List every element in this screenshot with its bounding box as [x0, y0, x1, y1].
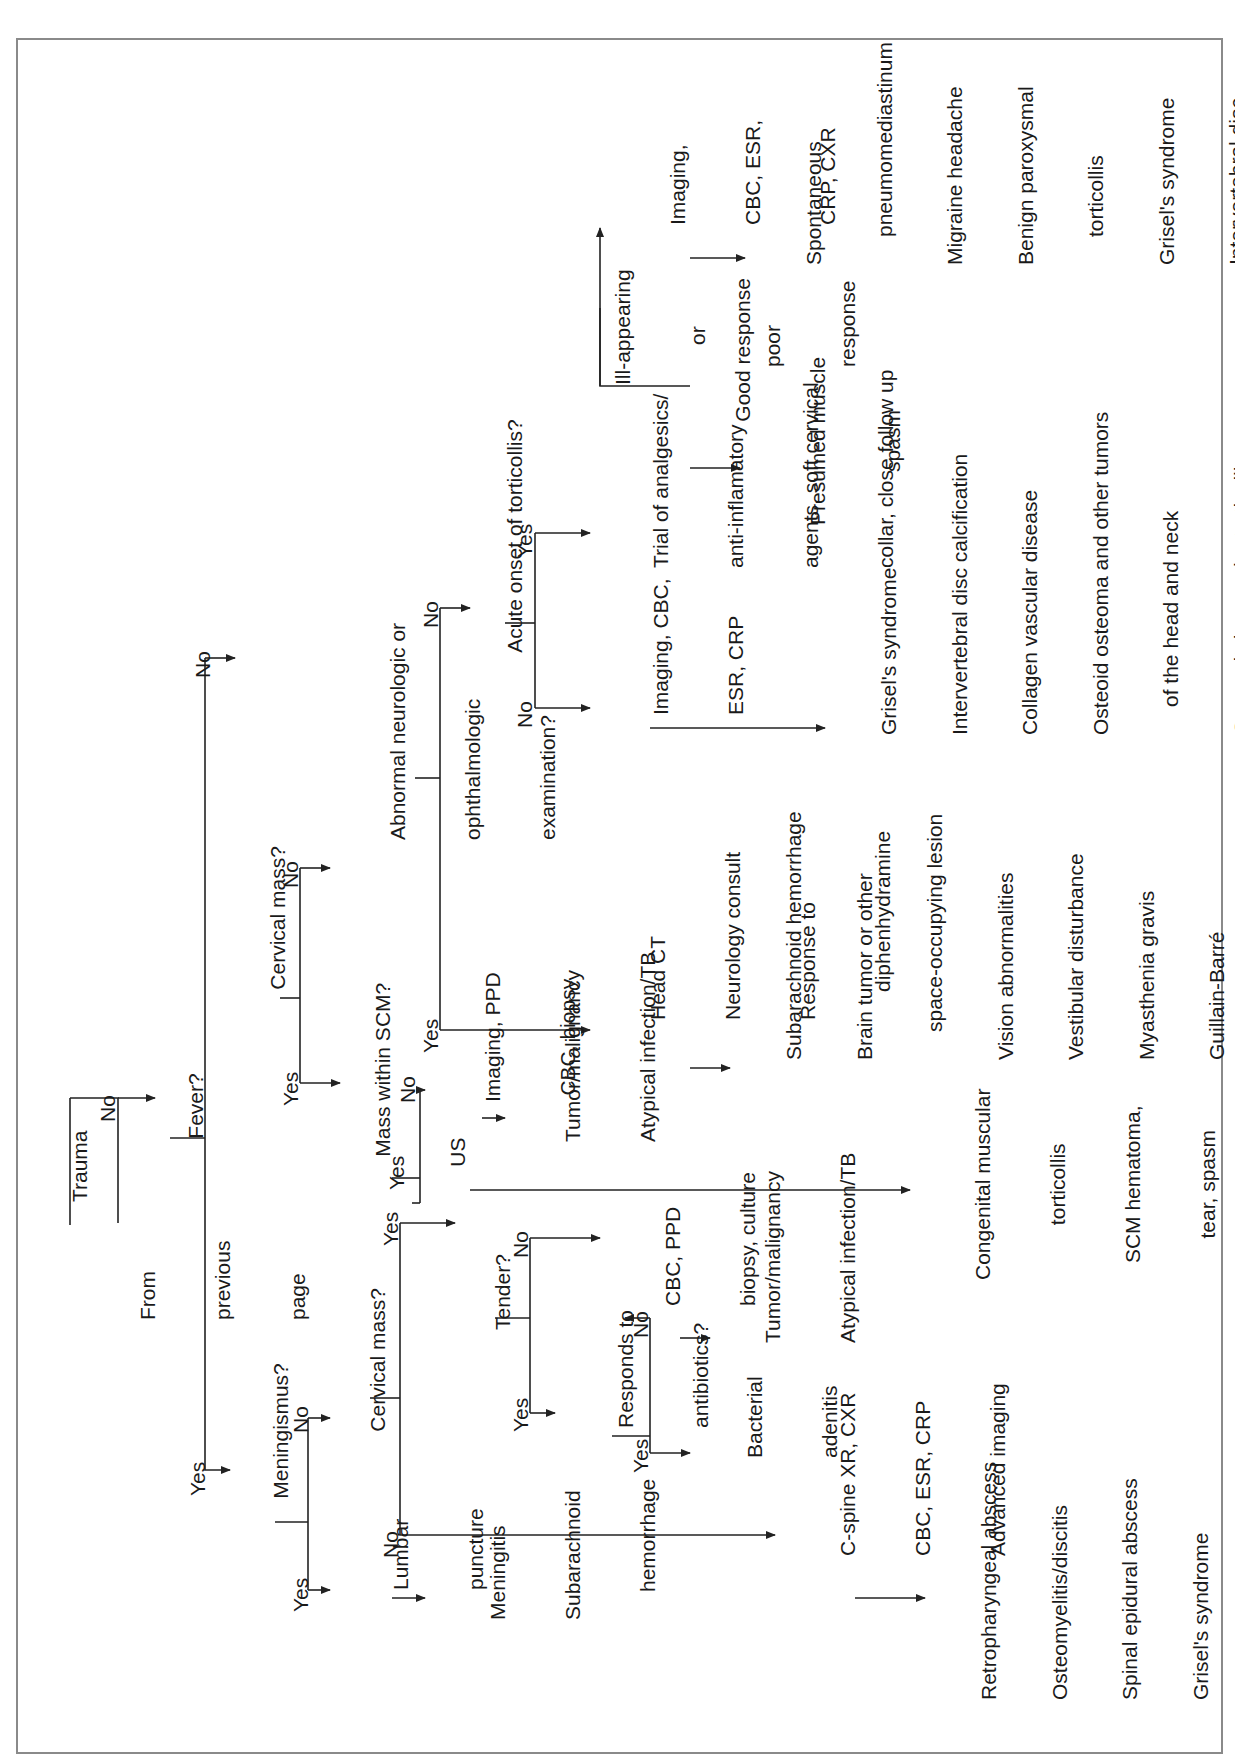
- edge-label-no: No: [628, 1311, 653, 1338]
- node-scm-diagnoses: Congenital muscular torticollis SCM hema…: [920, 1089, 1235, 1280]
- node-imaging-cbc-esr-crp: Imaging, CBC, ESR, CRP: [598, 578, 798, 715]
- edge-label-yes: Yes: [288, 1578, 313, 1612]
- node-meningitis-outcomes: Meningitis Subarachnoid hemorrhage: [435, 1479, 710, 1620]
- node-us: US: [420, 1137, 495, 1190]
- edge-label-yes: Yes: [185, 1462, 210, 1496]
- node-from-previous-page: From previous page: [85, 1241, 360, 1320]
- edge-label-yes: Yes: [512, 524, 537, 558]
- node-tender: Tender?: [465, 1254, 540, 1353]
- edge-label-no: No: [278, 861, 303, 888]
- node-ill-appearing: Ill-appearing or poor response: [560, 269, 910, 385]
- edge-label-no: No: [288, 1406, 313, 1433]
- edge-label-no: No: [508, 1231, 533, 1258]
- edge-label-yes: Yes: [418, 1019, 443, 1053]
- node-meningismus: Meningismus?: [243, 1363, 318, 1522]
- edge-label-yes: Yes: [378, 1212, 403, 1246]
- edge-label-no: No: [512, 701, 537, 728]
- node-abnormal-neuro-exam: Abnormal neurologic or ophthalmologic ex…: [335, 623, 610, 840]
- edge-label-yes: Yes: [278, 1072, 303, 1106]
- node-neuro-diagnoses: Subarachnoid hemorrhage Brain tumor or o…: [735, 811, 1235, 1060]
- edge-label-no: No: [95, 1095, 120, 1122]
- node-acute-poor-response-diagnoses: Spontaneous pneumomediastinum Migraine h…: [755, 42, 1235, 265]
- edge-label-no: No: [395, 1076, 420, 1103]
- node-tumor-fever: Tumor/malignancy Atypical infection/TB: [710, 1153, 910, 1343]
- edge-label-yes: Yes: [628, 1439, 653, 1473]
- node-cervical-mass-fever: Cervical mass?: [340, 1288, 415, 1455]
- edge-label-no: No: [190, 651, 215, 678]
- node-trauma: Trauma: [42, 1130, 117, 1225]
- edge-label-yes: Yes: [508, 1398, 533, 1432]
- edge-label-no: No: [378, 1531, 403, 1558]
- node-fever-no-mass-diagnoses: Retropharyngeal abscess Osteomyelitis/di…: [930, 1419, 1235, 1700]
- edge-label-yes: Yes: [384, 1156, 409, 1190]
- edge-label-no: No: [418, 601, 443, 628]
- flowchart-canvas: Trauma No From previous page Fever? No Y…: [0, 0, 1235, 1758]
- node-fever: Fever?: [158, 1073, 233, 1162]
